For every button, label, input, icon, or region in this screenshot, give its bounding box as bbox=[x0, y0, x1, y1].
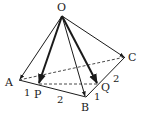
vector-OQ bbox=[62, 16, 97, 83]
label-Q: Q bbox=[101, 81, 110, 94]
pyramid-diagram: O A P B Q C 1 2 1 2 bbox=[0, 0, 142, 115]
label-A: A bbox=[4, 76, 14, 89]
label-B: B bbox=[81, 101, 89, 114]
label-C: C bbox=[128, 51, 136, 64]
edge-AC-dashed bbox=[19, 57, 125, 80]
length-PB: 2 bbox=[57, 94, 63, 105]
label-O: O bbox=[57, 1, 66, 14]
vector-OC bbox=[62, 16, 124, 57]
length-AP: 1 bbox=[24, 87, 30, 98]
vector-OA bbox=[20, 16, 62, 79]
label-P: P bbox=[34, 88, 42, 101]
length-QC: 2 bbox=[113, 73, 119, 84]
length-BQ: 1 bbox=[94, 91, 100, 102]
